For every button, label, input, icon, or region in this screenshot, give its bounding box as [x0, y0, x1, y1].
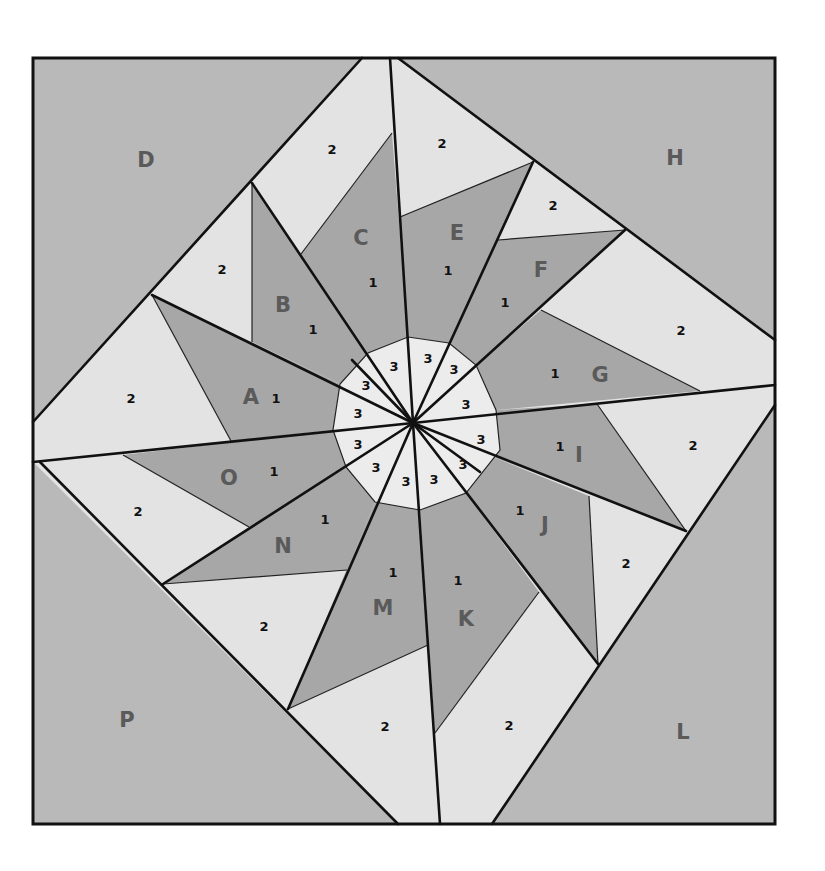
piece-number-1: 1	[453, 573, 462, 588]
piece-number-3: 3	[429, 472, 438, 487]
section-label-d: D	[137, 148, 154, 172]
piece-number-2: 2	[621, 556, 630, 571]
section-label-e: E	[450, 221, 464, 245]
quilt-pattern-diagram: DHLP A1B1C1E1F1G1I1J1K1M1N1O1 2222222222…	[0, 0, 825, 871]
section-label-h: H	[666, 146, 684, 170]
section-label-m: M	[373, 596, 394, 620]
section-label-f: F	[534, 258, 548, 282]
section-label-a: A	[243, 385, 260, 409]
piece-number-2: 2	[548, 198, 557, 213]
section-label-g: G	[591, 363, 608, 387]
piece-number-1: 1	[515, 503, 524, 518]
piece-number-2: 2	[504, 718, 513, 733]
section-label-o: O	[220, 466, 238, 490]
section-label-b: B	[275, 293, 291, 317]
piece-number-2: 2	[126, 391, 135, 406]
piece-number-1: 1	[368, 275, 377, 290]
piece-number-1: 1	[500, 295, 509, 310]
piece-number-3: 3	[461, 397, 470, 412]
section-label-k: K	[458, 607, 475, 631]
piece-number-3: 3	[476, 432, 485, 447]
piece-number-3: 3	[401, 474, 410, 489]
section-label-i: I	[575, 443, 583, 467]
piece-number-1: 1	[269, 464, 278, 479]
piece-number-3: 3	[371, 460, 380, 475]
piece-number-2: 2	[676, 323, 685, 338]
piece-number-3: 3	[449, 362, 458, 377]
piece-number-2: 2	[133, 504, 142, 519]
piece-number-2: 2	[437, 136, 446, 151]
piece-number-2: 2	[327, 142, 336, 157]
piece-number-1: 1	[308, 322, 317, 337]
section-label-j: J	[539, 513, 549, 537]
piece-number-3: 3	[389, 359, 398, 374]
piece-number-3: 3	[353, 437, 362, 452]
piece-number-1: 1	[555, 439, 564, 454]
piece-number-2: 2	[380, 719, 389, 734]
piece-number-1: 1	[320, 512, 329, 527]
section-label-l: L	[676, 720, 689, 744]
piece-number-1: 1	[271, 391, 280, 406]
piece-number-1: 1	[388, 565, 397, 580]
section-label-p: P	[119, 708, 134, 732]
piece-number-3: 3	[353, 406, 362, 421]
piece-number-2: 2	[259, 619, 268, 634]
piece-number-3: 3	[361, 378, 370, 393]
piece-number-3: 3	[423, 351, 432, 366]
piece-number-2: 2	[217, 262, 226, 277]
piece-number-2: 2	[688, 438, 697, 453]
piece-number-3: 3	[458, 457, 467, 472]
piece-number-1: 1	[443, 263, 452, 278]
section-label-n: N	[274, 534, 292, 558]
section-label-c: C	[353, 226, 368, 250]
piece-number-1: 1	[550, 366, 559, 381]
